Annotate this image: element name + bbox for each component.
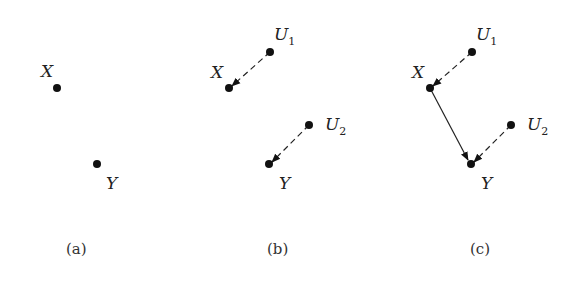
panel-a: X Y (a) (39, 61, 119, 258)
edge-u1-x (232, 52, 270, 86)
node-x (53, 84, 61, 92)
caption-c: (c) (470, 240, 490, 258)
edge-u1-x (433, 52, 472, 86)
node-u2 (305, 121, 313, 129)
node-u2-label: U2 (527, 114, 548, 138)
causal-diagram: X Y (a) U1 X U2 Y (b) U1 X U2 Y (c) (0, 0, 577, 284)
node-u1 (468, 48, 476, 56)
node-u2-label: U2 (325, 114, 346, 138)
node-y-label: Y (279, 173, 292, 193)
node-u1 (266, 48, 274, 56)
node-x (225, 84, 233, 92)
edge-u2-y (272, 125, 309, 162)
node-y (467, 160, 475, 168)
node-y-label: Y (106, 173, 119, 193)
node-u1-label: U1 (274, 24, 295, 48)
node-x-label: X (410, 62, 425, 82)
edge-x-y (430, 88, 468, 160)
node-x (426, 84, 434, 92)
caption-b: (b) (267, 240, 288, 258)
caption-a: (a) (66, 240, 87, 258)
node-x-label: X (209, 62, 224, 82)
panel-c: U1 X U2 Y (c) (410, 24, 548, 258)
node-y-label: Y (481, 173, 494, 193)
node-u1-label: U1 (476, 24, 497, 48)
node-x-label: X (39, 61, 54, 81)
panel-b: U1 X U2 Y (b) (209, 24, 346, 258)
node-u2 (507, 121, 515, 129)
node-y (265, 160, 273, 168)
node-y (93, 160, 101, 168)
edge-u2-y (474, 125, 511, 162)
